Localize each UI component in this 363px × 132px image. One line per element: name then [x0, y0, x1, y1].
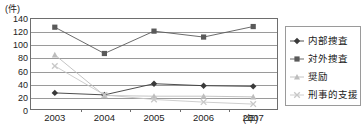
legend-item[interactable]: 対外捜査 [290, 49, 360, 68]
data-point-marker [151, 29, 156, 34]
legend-item[interactable]: 内部捜査 [290, 31, 360, 50]
series-triangle [52, 52, 256, 100]
data-point-marker [251, 24, 256, 29]
legend: 内部捜査対外捜査奨励刑事的支援 [285, 26, 361, 106]
x-axis-unit-label: (年) [243, 112, 258, 125]
square-marker-icon [290, 52, 304, 66]
series-square [52, 24, 256, 56]
x-axis-tick-label: 2003 [44, 112, 65, 123]
legend-item-label: 刑事的支援 [308, 90, 358, 100]
data-point-marker [52, 25, 57, 30]
x-axis-tick-label: 2004 [94, 112, 115, 123]
y-axis-tick-label: 20 [18, 93, 28, 103]
data-point-marker [151, 81, 157, 87]
data-point-marker [102, 51, 107, 56]
y-axis-tick-label: 100 [13, 40, 28, 50]
triangle-marker-icon [290, 70, 304, 84]
data-point-marker [250, 83, 256, 89]
y-axis-tick-label: 120 [13, 27, 28, 37]
x-axis-tick-label: 2005 [143, 112, 164, 123]
x-axis-tick-label: 2006 [193, 112, 214, 123]
legend-item-label: 奨励 [308, 72, 328, 82]
legend-item[interactable]: 刑事的支援 [290, 85, 360, 104]
y-axis-tick-label: 60 [18, 67, 28, 77]
series-line [55, 55, 253, 97]
y-axis-tick-label: 0 [23, 106, 28, 116]
legend-item-label: 内部捜査 [308, 36, 348, 46]
data-point-marker [52, 52, 58, 58]
series-layer [30, 18, 278, 110]
data-point-marker [200, 82, 206, 88]
legend-item-label: 対外捜査 [308, 54, 348, 64]
y-axis-tick-label: 140 [13, 14, 28, 24]
diamond-marker-icon [290, 34, 304, 48]
x-marker-icon [290, 88, 304, 102]
data-point-marker [52, 63, 58, 69]
data-point-marker [201, 34, 206, 39]
data-point-marker [52, 90, 58, 96]
legend-item[interactable]: 奨励 [290, 67, 360, 86]
line-chart: (件) 020406080100120140 20032004200520062… [0, 0, 363, 132]
y-axis-tick-label: 80 [18, 53, 28, 63]
y-axis-tick-label: 40 [18, 80, 28, 90]
